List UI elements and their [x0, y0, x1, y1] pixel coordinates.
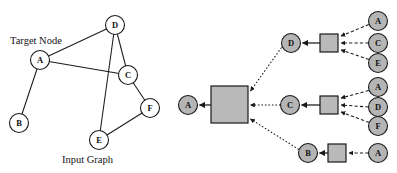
arrow-b-to-rootbox: [251, 119, 299, 150]
input-node-c[interactable]: C: [119, 66, 138, 85]
edge-a-c: [40, 60, 128, 75]
figure-canvas: A B C D E: [0, 0, 397, 173]
layer-b-group: B A: [299, 144, 388, 163]
layer-d-input-c-label: C: [375, 38, 381, 48]
computation-graph-group: A D A C: [179, 12, 388, 163]
input-graph-group: A B C D E: [10, 16, 160, 166]
layer-node-c[interactable]: C: [281, 96, 300, 115]
aggregation-box-d[interactable]: [320, 34, 338, 52]
layer-node-c-label: C: [287, 100, 293, 110]
layer-node-b[interactable]: B: [299, 144, 318, 163]
layer-c-input-a[interactable]: A: [369, 78, 388, 97]
input-node-d[interactable]: D: [106, 16, 125, 35]
aggregation-box-b[interactable]: [328, 144, 346, 162]
layer-c-input-f-label: F: [375, 121, 380, 131]
graph-diagram-svg: A B C D E: [0, 0, 397, 173]
target-node-label: Target Node: [10, 35, 62, 46]
output-node-a[interactable]: A: [179, 96, 198, 115]
layer-node-d-label: D: [288, 38, 294, 48]
layer-d-input-e[interactable]: E: [369, 54, 388, 73]
input-node-e[interactable]: E: [90, 131, 109, 150]
edge-d-e: [99, 25, 115, 140]
input-node-a[interactable]: A: [31, 51, 50, 70]
arrow-input-a-to-box-c: [341, 91, 369, 99]
input-node-f[interactable]: F: [141, 99, 160, 118]
arrow-input-d-to-box-c: [341, 105, 369, 107]
arrow-input-f-to-box-c: [341, 112, 369, 123]
layer-b-input-a[interactable]: A: [369, 144, 388, 163]
layer-c-group: C A D F: [281, 78, 388, 136]
layer-c-input-f[interactable]: F: [369, 117, 388, 136]
arrow-input-e-to-box-d: [341, 50, 369, 60]
layer-node-d[interactable]: D: [282, 34, 301, 53]
arrow-input-a-to-box-d: [341, 25, 369, 37]
input-node-b-label: B: [16, 118, 22, 128]
aggregation-box-c[interactable]: [320, 96, 338, 114]
input-node-b[interactable]: B: [10, 114, 29, 133]
layer-b-input-a-label: A: [375, 148, 382, 158]
arrow-d-to-rootbox: [251, 48, 282, 92]
layer-node-b-label: B: [305, 148, 311, 158]
output-node-a-label: A: [185, 100, 192, 110]
input-graph-caption: Input Graph: [62, 154, 114, 165]
layer-d-group: D A C E: [282, 12, 388, 73]
layer-d-input-a-label: A: [375, 16, 382, 26]
layer-d-input-c[interactable]: C: [369, 34, 388, 53]
input-node-e-label: E: [96, 135, 102, 145]
layer-d-input-e-label: E: [375, 58, 381, 68]
layer-c-input-a-label: A: [375, 82, 382, 92]
aggregation-box-root[interactable]: [211, 86, 248, 123]
layer-c-input-d-label: D: [375, 102, 381, 112]
input-node-d-label: D: [112, 20, 118, 30]
input-node-f-label: F: [147, 103, 152, 113]
input-node-a-label: A: [37, 55, 44, 65]
layer-c-input-d[interactable]: D: [369, 98, 388, 117]
layer-d-input-a[interactable]: A: [369, 12, 388, 31]
input-node-c-label: C: [125, 70, 131, 80]
